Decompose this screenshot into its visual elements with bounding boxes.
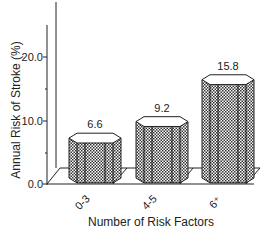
x-tick-label: 0-3 bbox=[72, 192, 92, 212]
bar-chart: 0.0 10.0 20.0 6.69.215.8 0-34-56⁺ Number… bbox=[0, 0, 275, 238]
x-tick-labels: 0-34-56⁺ bbox=[72, 192, 223, 212]
x-tick-label: 6⁺ bbox=[207, 194, 224, 211]
y-axis-title: Annual Risk of Stroke (%) bbox=[9, 41, 23, 178]
bar-4-5: 9.2 bbox=[136, 102, 188, 183]
x-tick-label: 4-5 bbox=[139, 192, 159, 212]
value-label: 6.6 bbox=[87, 118, 102, 130]
y-axis bbox=[43, 2, 56, 185]
bar-6+: 15.8 bbox=[202, 60, 254, 183]
value-label: 15.8 bbox=[217, 60, 238, 72]
svg-text:10.0: 10.0 bbox=[22, 115, 43, 127]
y-tick-labels: 0.0 10.0 20.0 bbox=[22, 51, 43, 190]
bars: 6.69.215.8 bbox=[69, 60, 254, 183]
bar-0-3: 6.6 bbox=[69, 118, 121, 183]
svg-text:0.0: 0.0 bbox=[28, 178, 43, 190]
x-axis-title: Number of Risk Factors bbox=[88, 215, 214, 229]
value-label: 9.2 bbox=[154, 102, 169, 114]
svg-text:20.0: 20.0 bbox=[22, 51, 43, 63]
